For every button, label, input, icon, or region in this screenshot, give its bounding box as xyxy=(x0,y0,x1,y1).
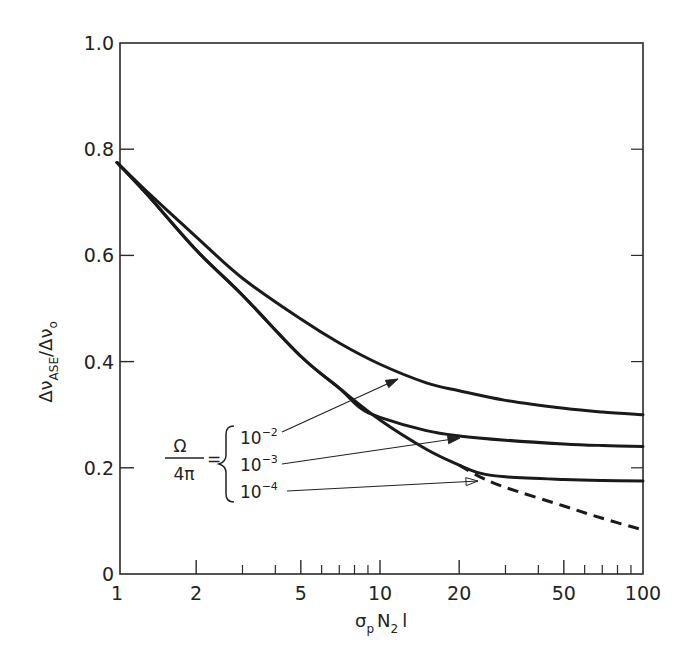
legend-arrow-line xyxy=(282,438,460,464)
legend-entry: 10−2 xyxy=(240,426,278,448)
x-tick-label: 50 xyxy=(552,582,576,604)
legend: Ω4π=10−210−310−4 xyxy=(165,379,478,502)
series-curve-0 xyxy=(117,162,643,414)
y-axis-label: ΔνASE/Δνo xyxy=(35,321,61,403)
legend-omega: Ω xyxy=(174,436,187,456)
x-tick-label: 1 xyxy=(111,582,123,604)
x-tick-label: 5 xyxy=(295,582,307,604)
plot-border xyxy=(120,43,643,574)
legend-brace xyxy=(219,426,234,502)
x-tick-label: 20 xyxy=(447,582,471,604)
y-tick-label: 0.4 xyxy=(84,351,114,373)
data-curves xyxy=(117,162,643,529)
arrowhead-icon xyxy=(385,379,398,388)
axis-ticks xyxy=(120,149,643,574)
y-tick-label: 0.2 xyxy=(84,457,114,479)
plot-frame xyxy=(120,43,643,574)
legend-equals: = xyxy=(207,449,221,469)
y-tick-label: 0.8 xyxy=(84,138,114,160)
tick-labels: 00.20.40.60.81.0125102050100 xyxy=(84,32,661,604)
chart: 00.20.40.60.81.0125102050100 Ω4π=10−210−… xyxy=(0,0,692,664)
x-axis-label: σpN2l xyxy=(355,610,407,636)
x-tick-label: 2 xyxy=(190,582,202,604)
legend-entry: 10−4 xyxy=(240,480,278,502)
y-tick-label: 1.0 xyxy=(84,32,114,54)
legend-4pi: 4π xyxy=(173,464,194,484)
y-tick-label: 0.6 xyxy=(84,244,114,266)
x-tick-label: 100 xyxy=(625,582,661,604)
x-tick-label: 10 xyxy=(368,582,392,604)
series-curve-1 xyxy=(117,162,643,446)
legend-entry: 10−3 xyxy=(240,453,278,475)
legend-arrow-line xyxy=(287,481,478,491)
series-curve-2 xyxy=(117,162,643,481)
